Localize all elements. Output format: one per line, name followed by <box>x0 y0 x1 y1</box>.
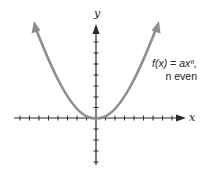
x-axis-arrow-icon <box>176 115 186 122</box>
y-axis-arrow-icon <box>93 24 100 34</box>
function-label: f(x) = axⁿ, n even <box>140 57 197 83</box>
curve-left-arrow-icon <box>32 21 41 34</box>
function-label-condition: n even <box>140 70 197 83</box>
x-axis-label: x <box>189 112 195 123</box>
y-axis-label: y <box>94 8 100 19</box>
y-axis <box>93 24 100 165</box>
graph-canvas <box>0 0 205 173</box>
function-label-formula: f(x) = axⁿ, <box>140 57 197 70</box>
curve-right-arrow-icon <box>152 21 161 34</box>
